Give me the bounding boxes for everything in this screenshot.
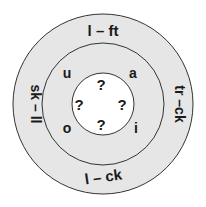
center-mark-top: ?	[96, 76, 105, 93]
center-mark-right: ?	[117, 96, 126, 113]
vowel-top-left: u	[63, 65, 72, 81]
vowel-top-right: a	[129, 65, 137, 81]
outer-word-top: l – ft	[88, 22, 119, 39]
vowel-bottom-left: o	[63, 120, 72, 136]
word-wheel-diagram: l – ft tr –ck l – ck sk – ll u a o i ? ?…	[0, 0, 206, 207]
outer-word-right: tr –ck	[172, 85, 188, 123]
center-mark-left: ?	[74, 96, 83, 113]
vowel-bottom-right: i	[134, 120, 138, 136]
center-mark-bottom: ?	[96, 116, 105, 133]
outer-word-left: sk – ll	[28, 85, 44, 124]
